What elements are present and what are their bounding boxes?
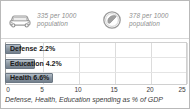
x-tick-20: 20 [146, 85, 153, 94]
bar-row: Defense 2.2% [5, 42, 187, 56]
stat-cars-text: 335 per 1000 population [37, 12, 77, 28]
telephone-icon [99, 8, 125, 32]
bar-label-education: Education 4.2% [10, 59, 62, 69]
x-tick-10: 10 [74, 85, 81, 94]
stat-cars-unit: population [37, 20, 77, 28]
spending-bar-chart: Defense 2.2%Education 4.2%Health 6.6% [5, 42, 187, 85]
bar-row: Education 4.2% [5, 57, 187, 71]
x-tick-0: 0 [6, 85, 10, 94]
x-tick-5: 5 [40, 85, 44, 94]
stats-strip: 335 per 1000 population 378 per 1000 pop… [1, 1, 189, 39]
country-stats-widget: 335 per 1000 population 378 per 1000 pop… [0, 0, 190, 109]
stat-telephones-text: 378 per 1000 population [129, 12, 169, 28]
bar-row: Health 6.6% [5, 71, 187, 85]
stat-telephones-unit: population [129, 20, 169, 28]
stat-cars-value: 335 per 1000 [37, 12, 77, 20]
chart-x-axis: 0510152025 [5, 85, 187, 94]
gridline [187, 43, 188, 84]
stat-cars: 335 per 1000 population [1, 1, 95, 38]
x-tick-25: 25 [178, 85, 185, 94]
bar-label-defense: Defense 2.2% [10, 44, 55, 54]
bar-label-health: Health 6.6% [10, 73, 49, 83]
stat-telephones: 378 per 1000 population [95, 1, 189, 38]
stat-telephones-value: 378 per 1000 [129, 12, 169, 20]
x-tick-15: 15 [110, 85, 117, 94]
car-icon [7, 8, 33, 32]
chart-caption: Defense, Health, Education spending as %… [5, 95, 189, 105]
